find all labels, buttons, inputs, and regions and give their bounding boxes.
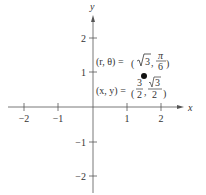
svg-text:π: π (158, 50, 164, 61)
x-tick-label: 1 (125, 113, 130, 124)
polar-annotation: (r, θ) = ( 3 , π 6 ) (96, 50, 169, 72)
polar-coordinate-plot: x y −2 −1 1 2 2 1 −1 −2 (r, θ) = ( 3 , π… (0, 0, 206, 195)
y-axis-arrow-icon (91, 15, 95, 22)
x-axis-label: x (187, 102, 193, 113)
y-tick-label: 1 (81, 67, 86, 78)
y-axis-label: y (89, 1, 95, 12)
svg-text:6: 6 (158, 61, 163, 72)
svg-text:,: , (144, 86, 147, 97)
y-tick-label: −2 (75, 171, 86, 182)
x-ticks: −2 −1 1 2 (19, 103, 164, 124)
svg-text:): ) (163, 88, 166, 100)
svg-text:2: 2 (152, 89, 157, 100)
rect-lhs: (x, y) = (96, 85, 126, 97)
svg-text:3: 3 (155, 77, 160, 88)
svg-text:(: ( (131, 58, 135, 70)
x-axis-arrow-icon (177, 105, 184, 109)
y-tick-label: 2 (81, 33, 86, 44)
x-tick-label: −2 (19, 113, 30, 124)
y-ticks: 2 1 −1 −2 (75, 33, 97, 182)
svg-text:3: 3 (145, 56, 150, 67)
x-tick-label: 2 (159, 113, 164, 124)
rect-annotation: (x, y) = ( 3 2 , 3 2 ) (96, 77, 166, 100)
svg-text:(: ( (131, 88, 135, 100)
svg-text:,: , (151, 57, 154, 68)
x-tick-label: −1 (53, 113, 64, 124)
polar-lhs: (r, θ) = (96, 56, 124, 68)
y-tick-label: −1 (75, 137, 86, 148)
svg-text:2: 2 (137, 89, 142, 100)
svg-text:3: 3 (137, 77, 142, 88)
svg-text:): ) (166, 58, 169, 70)
